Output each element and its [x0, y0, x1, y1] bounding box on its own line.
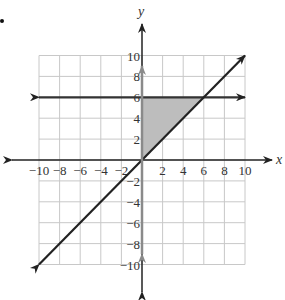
- y-tick-label: −4: [126, 195, 140, 210]
- y-tick-label: 8: [134, 69, 141, 84]
- y-tick-label: −6: [126, 216, 140, 231]
- y-tick-label: 4: [134, 111, 141, 126]
- x-tick-label: −6: [73, 163, 87, 178]
- y-axis-label: y: [136, 4, 145, 19]
- x-tick-label: −4: [94, 163, 108, 178]
- y-tick-label: −10: [120, 258, 140, 273]
- x-tick-label: −8: [53, 163, 67, 178]
- x-tick-label: 2: [159, 163, 166, 178]
- x-tick-label: 8: [221, 163, 228, 178]
- y-tick-label: −8: [126, 237, 140, 252]
- y-tick-label: 10: [127, 49, 140, 64]
- x-tick-label: −10: [29, 163, 49, 178]
- x-tick-label: 6: [201, 163, 208, 178]
- y-tick-label: 2: [134, 132, 141, 147]
- x-tick-label: 10: [239, 163, 252, 178]
- y-tick-label: −2: [126, 174, 140, 189]
- x-tick-label: 4: [180, 163, 187, 178]
- x-axis-label: x: [275, 152, 283, 167]
- coordinate-plane: −10−8−6−4−2246810108642−2−4−6−8−10 x y: [0, 0, 285, 300]
